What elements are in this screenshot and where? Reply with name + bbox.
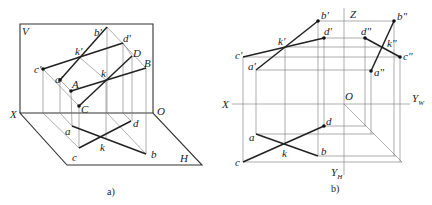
label-O: O bbox=[345, 90, 353, 102]
label-b: b bbox=[321, 145, 327, 157]
projection-diagram: V H X O b' d' D B k' k c' a' A C a d c k… bbox=[0, 0, 432, 205]
label-d1: d' bbox=[324, 25, 333, 37]
label-c1: c' bbox=[235, 49, 243, 61]
label-k-space: k bbox=[101, 67, 107, 79]
line-c-d bbox=[79, 121, 131, 148]
point-c1 bbox=[41, 67, 45, 71]
label-b1: b' bbox=[94, 26, 103, 38]
point-a2 bbox=[369, 69, 373, 73]
label-d: d bbox=[326, 115, 332, 127]
point-b1 bbox=[316, 19, 320, 23]
line-A-B bbox=[71, 68, 146, 91]
label-Z: Z bbox=[350, 8, 357, 20]
point-c2 bbox=[398, 55, 402, 59]
45-degree-line bbox=[344, 104, 402, 162]
caption-b: b) bbox=[331, 183, 339, 195]
label-H: H bbox=[179, 152, 189, 164]
caption-a: a) bbox=[107, 186, 115, 198]
lines-a bbox=[43, 27, 146, 154]
label-YH: YH bbox=[331, 166, 343, 181]
label-k: k bbox=[100, 141, 106, 153]
label-A: A bbox=[71, 78, 79, 90]
label-C: C bbox=[81, 103, 89, 115]
label-D: D bbox=[132, 47, 141, 59]
label-X: X bbox=[9, 108, 18, 120]
line-c1-d1 bbox=[43, 43, 123, 69]
label-b: b bbox=[151, 148, 157, 160]
label-k2: k" bbox=[387, 37, 397, 49]
label-k: k bbox=[282, 147, 288, 159]
label-c: c bbox=[235, 156, 240, 168]
figure-b: Z X O YW YH b' d' k' c' a' b" d" k" c" a… bbox=[221, 8, 425, 195]
label-V: V bbox=[22, 25, 30, 37]
lines-b bbox=[243, 21, 400, 162]
label-a: a bbox=[249, 131, 255, 143]
label-X: X bbox=[221, 98, 230, 110]
label-d2: d" bbox=[361, 25, 372, 37]
line-a1-b1 bbox=[256, 21, 318, 70]
label-B: B bbox=[144, 57, 151, 69]
label-c: c bbox=[72, 151, 77, 163]
label-b1: b' bbox=[321, 9, 330, 21]
label-b2: b" bbox=[397, 10, 408, 22]
label-d: d bbox=[133, 117, 139, 129]
label-a: a bbox=[65, 125, 71, 137]
label-a1: a' bbox=[248, 60, 257, 72]
label-YW: YW bbox=[412, 92, 425, 107]
h-plane bbox=[20, 113, 202, 165]
label-k1: k' bbox=[278, 35, 286, 47]
point-b2 bbox=[392, 19, 396, 23]
label-c1: c' bbox=[34, 63, 42, 75]
line-a-b bbox=[72, 126, 146, 154]
label-d1: d' bbox=[123, 32, 132, 44]
figure-a: V H X O b' d' D B k' k c' a' A C a d c k… bbox=[9, 24, 202, 198]
label-k1: k' bbox=[75, 45, 83, 57]
label-a2: a" bbox=[374, 66, 385, 78]
label-O: O bbox=[157, 105, 165, 117]
label-a1: a' bbox=[55, 73, 64, 85]
projectors-b bbox=[243, 21, 402, 162]
label-c2: c" bbox=[403, 50, 413, 62]
